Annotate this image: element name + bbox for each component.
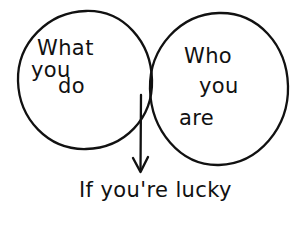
right-circle-line-3: are — [179, 108, 214, 129]
venn-diagram-canvas: What you do Who you are If you're lucky — [0, 0, 303, 232]
right-circle-line-2: you — [199, 76, 239, 97]
left-circle-line-3: do — [58, 76, 85, 97]
right-circle-line-1: Who — [184, 46, 232, 67]
left-circle-line-1: What — [37, 38, 94, 59]
down-arrow-icon — [133, 95, 148, 172]
intersection-caption: If you're lucky — [79, 180, 232, 201]
